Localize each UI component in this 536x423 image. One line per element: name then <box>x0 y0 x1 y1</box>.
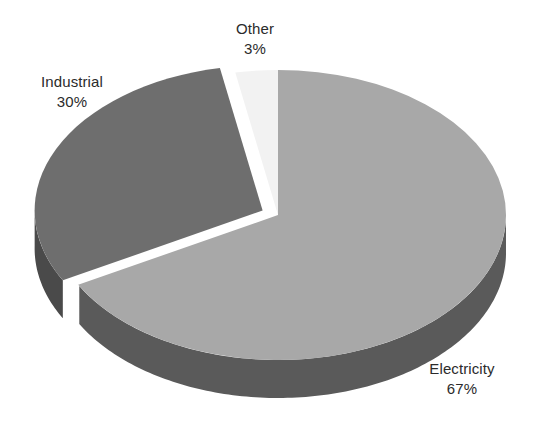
slice-label-industrial: Industrial 30% <box>2 72 142 112</box>
slice-label-electricity-name: Electricity <box>392 359 532 379</box>
slice-label-industrial-name: Industrial <box>2 72 142 92</box>
slice-label-other-value: 3% <box>190 39 320 59</box>
slice-label-electricity-value: 67% <box>392 379 532 399</box>
slice-label-industrial-value: 30% <box>2 92 142 112</box>
slice-label-electricity: Electricity 67% <box>392 359 532 399</box>
slice-label-other-name: Other <box>190 19 320 39</box>
slice-label-other: Other 3% <box>190 19 320 59</box>
pie-chart: Other 3% Industrial 30% Electricity 67% <box>0 0 536 423</box>
